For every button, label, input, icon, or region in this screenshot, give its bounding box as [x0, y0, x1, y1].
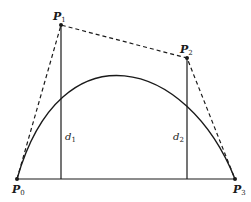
- label-d2: d2: [173, 131, 184, 144]
- diagram-canvas: P0 P1 P2 P3 d1 d2: [0, 0, 251, 202]
- control-polygon: [17, 25, 235, 179]
- label-d1: d1: [65, 131, 76, 144]
- bezier-diagram: P0 P1 P2 P3 d1 d2: [0, 0, 251, 202]
- label-p3: P3: [232, 183, 246, 197]
- label-p0: P0: [11, 183, 25, 197]
- label-p1: P1: [52, 10, 66, 24]
- bezier-curve: [17, 76, 235, 179]
- point-p3-dot: [233, 177, 237, 181]
- label-p2: P2: [179, 43, 193, 57]
- point-p0-dot: [15, 177, 19, 181]
